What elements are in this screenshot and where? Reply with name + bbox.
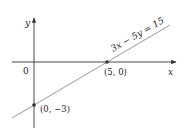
x-axis-label: x [168, 67, 173, 77]
x-intercept-point [105, 60, 109, 64]
graph-line [12, 25, 170, 118]
coordinate-graph: y x 0 (5, 0) (0, −3) 3x − 5y = 15 [0, 0, 188, 130]
x-intercept-label: (5, 0) [104, 67, 127, 77]
equation-label: 3x − 5y = 15 [109, 15, 166, 54]
y-axis-label: y [24, 18, 31, 28]
y-intercept-label: (0, −3) [40, 104, 70, 114]
origin-label: 0 [23, 66, 29, 76]
y-intercept-point [32, 103, 36, 107]
